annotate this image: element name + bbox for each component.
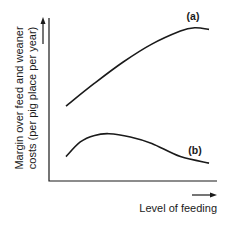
series-label-a: (a) (187, 10, 200, 22)
x-axis-label: Level of feeding (139, 202, 217, 214)
series-layer: (a)(b) (66, 10, 209, 163)
y-arrowhead-icon (41, 17, 46, 24)
y-axis-arrow (41, 17, 46, 44)
series-label-b: (b) (188, 144, 201, 156)
series-line-a (66, 28, 209, 106)
x-arrowhead-icon (210, 193, 217, 198)
y-axis-label-line-2: costs (per pig place per year) (26, 27, 38, 169)
y-axis-label-line-1: Margin over feed and weaner (13, 26, 25, 169)
y-axis-label: Margin over feed and weaner costs (per p… (13, 26, 38, 169)
x-axis-arrow (192, 193, 217, 198)
chart: Margin over feed and weaner costs (per p… (0, 0, 232, 225)
